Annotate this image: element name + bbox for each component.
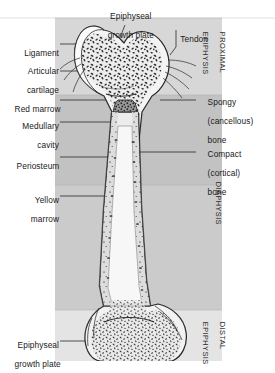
region-label-diaphysis: DIAPHYSIS (205, 172, 230, 225)
label-line: Epiphyseal (18, 340, 59, 350)
region-label-line: EPIPHYSIS (201, 32, 210, 75)
label-epiphyseal-growth-plate-top: Epiphyseal growth plate (84, 2, 168, 50)
label-yellow-marrow: Yellow marrow (11, 186, 59, 234)
label-line: growth plate (15, 359, 61, 369)
label-line: Epiphyseal (110, 11, 151, 21)
region-label-line: PROXIMAL (218, 32, 227, 73)
region-label-proximal-epiphysis: PROXIMAL EPIPHYSIS (193, 22, 234, 75)
label-line: Yellow (35, 195, 59, 205)
label-line: growth plate (108, 30, 154, 40)
label-line: Spongy (208, 97, 237, 107)
region-label-line: DIAPHYSIS (214, 182, 223, 225)
label-line: Compact (208, 149, 242, 159)
label-line: cavity (37, 140, 59, 150)
region-label-line: DISTAL (218, 322, 227, 350)
label-line: marrow (31, 214, 59, 224)
label-line: Articular (28, 66, 59, 76)
label-periosteum: Periosteum (7, 152, 59, 181)
label-line: Medullary (22, 121, 59, 131)
label-line: cartilage (27, 85, 59, 95)
region-label-distal-epiphysis: DISTAL EPIPHYSIS (193, 312, 234, 365)
region-label-line: EPIPHYSIS (201, 322, 210, 365)
label-line: (cancellous) (208, 116, 254, 126)
distal-epiphysis-region (85, 300, 186, 361)
label-line: Periosteum (17, 161, 60, 171)
label-epiphyseal-growth-plate-bottom: Epiphyseal growth plate (5, 331, 59, 373)
